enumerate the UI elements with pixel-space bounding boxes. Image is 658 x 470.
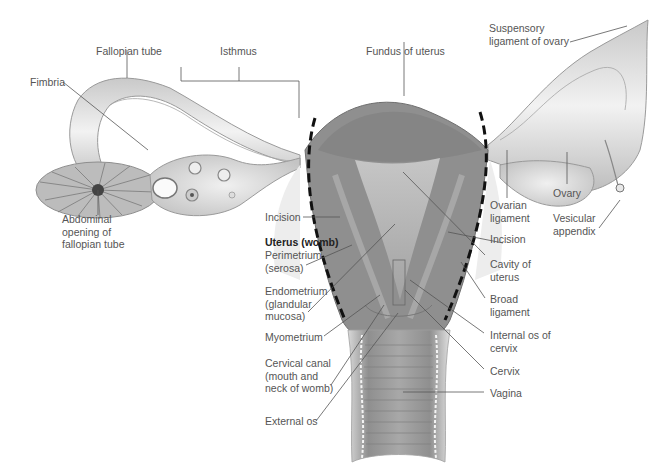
label-fundus-of-uterus: Fundus of uterus xyxy=(366,45,445,58)
label-endometrium: Endometrium (glandular mucosa) xyxy=(265,285,327,323)
label-suspensory-ligament: Suspensory ligament of ovary xyxy=(489,22,569,47)
label-myometrium: Myometrium xyxy=(265,331,323,344)
label-vagina: Vagina xyxy=(490,387,522,400)
label-uterus-heading: Uterus (womb) xyxy=(265,236,339,249)
label-isthmus: Isthmus xyxy=(220,45,257,58)
uterus-body xyxy=(305,102,488,345)
label-cavity-of-uterus: Cavity of uterus xyxy=(490,258,531,283)
label-cervix: Cervix xyxy=(490,365,520,378)
label-cervical-canal: Cervical canal (mouth and neck of womb) xyxy=(265,357,333,395)
label-ovary: Ovary xyxy=(553,187,581,200)
vagina xyxy=(348,330,450,462)
label-internal-os: Internal os of cervix xyxy=(490,329,551,354)
label-ovarian-ligament: Ovarian ligament xyxy=(490,199,530,224)
label-incision-left: Incision xyxy=(265,211,301,224)
label-external-os: External os xyxy=(265,415,318,428)
label-fimbria: Fimbria xyxy=(30,76,65,89)
label-incision-right: Incision xyxy=(490,233,526,246)
label-abdominal-opening: Abdominal opening of fallopian tube xyxy=(62,213,124,251)
left-ovary xyxy=(150,155,300,216)
label-broad-ligament: Broad ligament xyxy=(490,293,530,318)
label-perimetrium: Perimetrium (serosa) xyxy=(265,249,322,274)
label-fallopian-tube: Fallopian tube xyxy=(96,45,162,58)
label-vesicular-appendix: Vesicular appendix xyxy=(553,212,596,237)
